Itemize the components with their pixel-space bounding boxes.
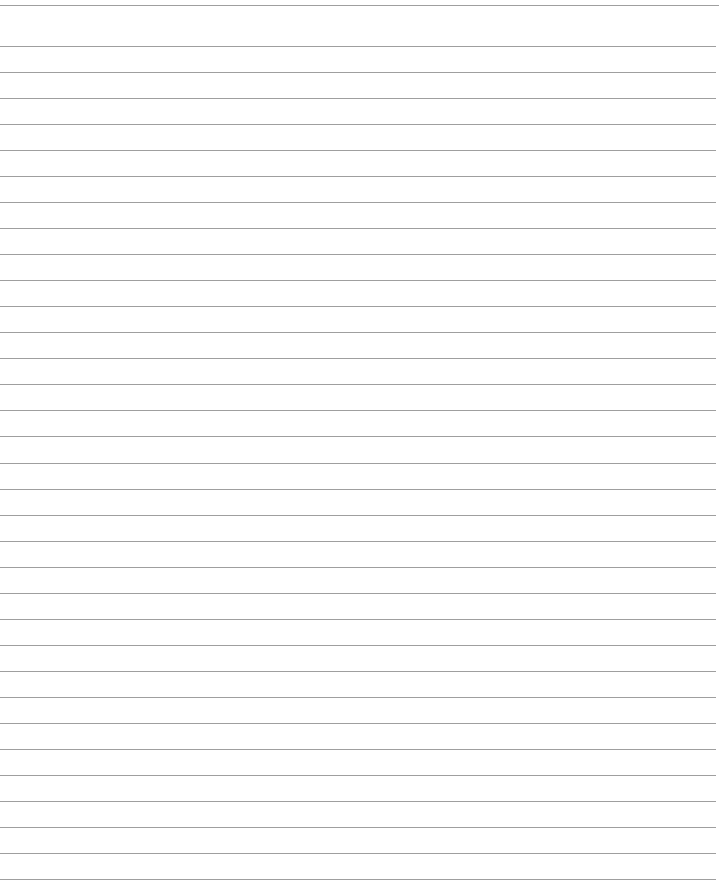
ruled-line (0, 306, 716, 307)
ruled-line (0, 228, 716, 229)
ruled-line (0, 515, 716, 516)
lined-paper-sheet (0, 0, 719, 882)
ruled-line (0, 98, 716, 99)
ruled-line (0, 775, 716, 776)
ruled-line (0, 879, 716, 880)
ruled-line (0, 150, 716, 151)
ruled-line (0, 176, 716, 177)
ruled-line (0, 410, 716, 411)
ruled-line (0, 697, 716, 698)
ruled-line (0, 671, 716, 672)
ruled-line (0, 5, 719, 6)
ruled-line (0, 358, 716, 359)
ruled-line (0, 749, 716, 750)
ruled-line (0, 593, 716, 594)
ruled-line (0, 463, 716, 464)
ruled-line (0, 645, 716, 646)
ruled-line (0, 853, 716, 854)
ruled-line (0, 280, 716, 281)
ruled-line (0, 202, 716, 203)
ruled-line (0, 254, 716, 255)
ruled-line (0, 46, 716, 47)
ruled-line (0, 619, 716, 620)
ruled-line (0, 567, 716, 568)
ruled-line (0, 827, 716, 828)
ruled-line (0, 332, 716, 333)
ruled-line (0, 489, 716, 490)
ruled-line (0, 72, 716, 73)
ruled-line (0, 436, 716, 437)
ruled-line (0, 384, 716, 385)
ruled-line (0, 801, 716, 802)
ruled-line (0, 541, 716, 542)
ruled-line (0, 723, 716, 724)
ruled-line (0, 124, 716, 125)
